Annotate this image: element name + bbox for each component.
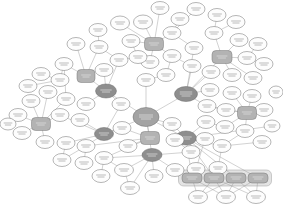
graph-node[interactable] bbox=[253, 136, 271, 149]
graph-node[interactable] bbox=[187, 3, 205, 16]
graph-node[interactable] bbox=[57, 93, 75, 106]
graph-node[interactable] bbox=[217, 191, 236, 204]
graph-node[interactable] bbox=[39, 86, 57, 99]
graph-node[interactable] bbox=[145, 38, 164, 51]
graph-node[interactable] bbox=[92, 170, 110, 183]
graph-node[interactable] bbox=[89, 24, 107, 37]
graph-node[interactable] bbox=[243, 90, 261, 103]
graph-node[interactable] bbox=[110, 54, 128, 67]
graph-node[interactable] bbox=[77, 140, 95, 153]
graph-node[interactable] bbox=[185, 42, 203, 55]
graph-node[interactable] bbox=[32, 68, 50, 81]
graph-node[interactable] bbox=[13, 127, 31, 140]
graph-node[interactable] bbox=[96, 84, 117, 98]
graph-node[interactable] bbox=[182, 146, 200, 159]
graph-node[interactable] bbox=[223, 87, 241, 100]
graph-node[interactable] bbox=[249, 38, 267, 51]
graph-node[interactable] bbox=[166, 134, 184, 147]
node-shape bbox=[57, 137, 75, 150]
graph-node[interactable] bbox=[208, 9, 226, 22]
graph-node[interactable] bbox=[171, 13, 189, 26]
graph-node[interactable] bbox=[53, 154, 71, 167]
node-label-blur bbox=[249, 79, 256, 80]
node-label-blur bbox=[171, 141, 178, 142]
graph-node[interactable] bbox=[213, 140, 231, 153]
graph-node[interactable] bbox=[115, 164, 134, 177]
graph-node[interactable] bbox=[196, 133, 214, 146]
graph-node[interactable] bbox=[32, 118, 51, 131]
graph-node[interactable] bbox=[182, 173, 202, 183]
graph-node[interactable] bbox=[247, 191, 266, 204]
graph-node[interactable] bbox=[209, 162, 227, 175]
graph-node[interactable] bbox=[51, 109, 69, 122]
graph-node[interactable] bbox=[212, 51, 232, 64]
graph-node[interactable] bbox=[216, 121, 234, 134]
graph-node[interactable] bbox=[189, 191, 208, 204]
node-label-blur bbox=[81, 75, 91, 76]
graph-node[interactable] bbox=[244, 72, 262, 85]
graph-node[interactable] bbox=[19, 80, 37, 93]
graph-node[interactable] bbox=[201, 84, 219, 97]
graph-node[interactable] bbox=[36, 136, 54, 149]
graph-node[interactable] bbox=[145, 170, 163, 183]
graph-node[interactable] bbox=[134, 15, 153, 29]
graph-node[interactable] bbox=[77, 98, 95, 111]
graph-node[interactable] bbox=[166, 164, 184, 177]
graph-node[interactable] bbox=[129, 51, 147, 64]
graph-node[interactable] bbox=[198, 100, 216, 113]
graph-node[interactable] bbox=[217, 104, 235, 117]
graph-node[interactable] bbox=[255, 58, 273, 71]
graph-node[interactable] bbox=[248, 173, 268, 183]
graph-node[interactable] bbox=[95, 152, 113, 165]
graph-node[interactable] bbox=[57, 137, 75, 150]
graph-node[interactable] bbox=[269, 86, 283, 98]
graph-node[interactable] bbox=[226, 173, 246, 183]
graph-node[interactable] bbox=[113, 122, 131, 135]
graph-node[interactable] bbox=[141, 132, 160, 145]
graph-node[interactable] bbox=[75, 157, 93, 170]
node-shape bbox=[217, 191, 236, 204]
node-label-blur bbox=[145, 61, 155, 62]
graph-node[interactable] bbox=[122, 35, 140, 48]
node-label-blur bbox=[170, 139, 180, 140]
graph-node[interactable] bbox=[119, 140, 137, 153]
graph-node[interactable] bbox=[163, 118, 181, 131]
graph-node[interactable] bbox=[236, 125, 254, 138]
graph-node[interactable] bbox=[255, 104, 273, 117]
graph-node[interactable] bbox=[51, 74, 69, 87]
graph-node[interactable] bbox=[175, 87, 198, 102]
graph-node[interactable] bbox=[238, 52, 256, 65]
graph-node[interactable] bbox=[22, 95, 40, 108]
graph-node[interactable] bbox=[111, 16, 130, 30]
graph-node[interactable] bbox=[151, 2, 169, 15]
node-label-blur bbox=[253, 177, 264, 178]
graph-node[interactable] bbox=[112, 98, 130, 111]
graph-node[interactable] bbox=[67, 38, 85, 51]
graph-node[interactable] bbox=[71, 114, 89, 127]
graph-node[interactable] bbox=[137, 74, 155, 87]
node-label-blur bbox=[125, 187, 135, 188]
graph-node[interactable] bbox=[142, 149, 162, 162]
graph-node[interactable] bbox=[230, 34, 248, 47]
graph-node[interactable] bbox=[95, 128, 114, 141]
graph-node[interactable] bbox=[121, 182, 140, 195]
graph-node[interactable] bbox=[202, 66, 220, 79]
graph-node[interactable] bbox=[205, 27, 223, 40]
graph-node[interactable] bbox=[238, 107, 257, 120]
graph-node[interactable] bbox=[163, 50, 181, 63]
graph-node[interactable] bbox=[197, 116, 215, 129]
graph-node[interactable] bbox=[163, 27, 181, 40]
graph-node[interactable] bbox=[227, 16, 245, 29]
graph-node[interactable] bbox=[223, 69, 241, 82]
graph-node[interactable] bbox=[90, 41, 108, 54]
graph-node[interactable] bbox=[95, 64, 113, 77]
node-label-blur bbox=[214, 169, 221, 170]
graph-node[interactable] bbox=[55, 58, 73, 71]
graph-node-hub[interactable] bbox=[133, 108, 159, 127]
graph-node[interactable] bbox=[77, 70, 95, 83]
graph-node[interactable] bbox=[204, 173, 224, 183]
graph-node[interactable] bbox=[0, 118, 16, 130]
graph-node[interactable] bbox=[183, 60, 201, 73]
graph-node[interactable] bbox=[157, 69, 175, 82]
graph-node[interactable] bbox=[264, 120, 280, 132]
